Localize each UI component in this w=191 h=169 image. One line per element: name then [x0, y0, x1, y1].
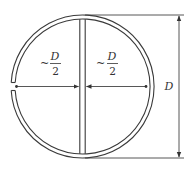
center-divider — [80, 19, 85, 153]
left-half-label: ~ D 2 — [40, 50, 61, 77]
fraction-numerator: D — [50, 50, 60, 63]
approx-symbol: ~ — [40, 57, 49, 70]
split-ring-diagram: ~ D 2 ~ D 2 D — [0, 0, 191, 169]
diameter-label: D — [164, 80, 174, 93]
approx-symbol: ~ — [96, 57, 105, 70]
right-half-label: ~ D 2 — [96, 50, 118, 77]
fraction-numerator: D — [107, 50, 117, 63]
fraction-denominator: 2 — [109, 65, 116, 77]
fraction-denominator: 2 — [52, 65, 59, 77]
